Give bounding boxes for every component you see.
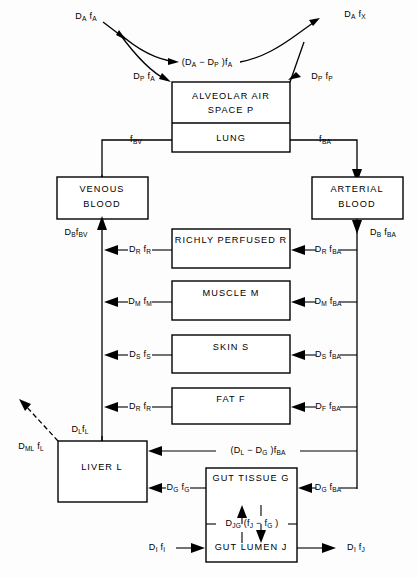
diagram-vector-layer: ALVEOLAR AIR SPACE P LUNG VENOUS BLOOD A… bbox=[0, 0, 418, 578]
skin-label: SKIN S bbox=[213, 342, 249, 352]
flow-label-hepatic-artery: (DL − DG )fBA bbox=[231, 446, 286, 455]
flow-label-fat-in: DF fBA bbox=[315, 402, 341, 411]
flow-label-expired-air: DA fX bbox=[344, 10, 365, 19]
alveolar-label-line1: ALVEOLAR AIR bbox=[192, 91, 270, 101]
alveolar-label-line2: SPACE P bbox=[208, 105, 255, 115]
fat-box bbox=[172, 388, 290, 424]
intestinal-input-arrow bbox=[176, 543, 205, 553]
flow-label-skin-out: DS fS bbox=[129, 350, 150, 359]
flow-label-liver-metabolism: DML fL bbox=[18, 442, 44, 451]
flow-label-fat-out: DR fR bbox=[129, 402, 151, 411]
flow-label-richly-out: DR fR bbox=[129, 245, 151, 254]
arterial-blood-box bbox=[312, 177, 403, 219]
lung-label: LUNG bbox=[216, 133, 246, 143]
flow-label-intestinal-input: DI fI bbox=[149, 543, 165, 552]
venous-blood-box bbox=[57, 177, 148, 219]
flow-label-muscle-out: DM fM bbox=[128, 297, 152, 306]
flow-label-liver-out: DLfL bbox=[71, 425, 88, 434]
muscle-box bbox=[172, 281, 290, 320]
gut-lumen-label: GUT LUMEN J bbox=[215, 542, 288, 552]
inspired-air-arrow bbox=[103, 22, 179, 65]
flow-label-dead-space: (DA − DP )fA bbox=[182, 58, 232, 67]
deadspace-curve-right bbox=[240, 33, 299, 62]
fat-label: FAT F bbox=[216, 394, 245, 404]
richly-perfused-label: RICHLY PERFUSED R bbox=[175, 235, 287, 245]
venous-return-trunk bbox=[97, 216, 107, 454]
flow-label-lung-arterial: fBA bbox=[319, 135, 331, 144]
flow-label-inspired-air: DA fA bbox=[75, 12, 96, 21]
flow-label-richly-in: DR fBA bbox=[315, 245, 341, 254]
flow-label-skin-in: DS fBA bbox=[315, 350, 341, 359]
gut-tissue-label: GUT TISSUE G bbox=[212, 473, 289, 483]
flow-label-alveolar-out: DP fP bbox=[311, 72, 332, 81]
flow-label-blood-arterial: DB fBA bbox=[370, 228, 396, 237]
flow-diagram-canvas: ALVEOLAR AIR SPACE P LUNG VENOUS BLOOD A… bbox=[0, 0, 418, 578]
expired-air-arrow bbox=[299, 18, 320, 33]
flow-label-muscle-in: DM fBA bbox=[314, 297, 341, 306]
venous-label-line1: VENOUS bbox=[79, 184, 124, 194]
flow-label-portal-vein: DG fG bbox=[167, 483, 190, 492]
skin-box bbox=[172, 335, 290, 373]
flow-label-alveolar-in: DP fA bbox=[133, 72, 154, 81]
arterial-supply-trunk bbox=[352, 219, 362, 489]
intestinal-output-arrow bbox=[297, 543, 336, 553]
arterial-label-line1: ARTERIAL bbox=[330, 184, 383, 194]
liver-metabolism-arrow bbox=[19, 399, 58, 441]
liver-label: LIVER L bbox=[81, 462, 123, 472]
flow-label-gut-exchange: DJG (fJ − fG ) bbox=[225, 519, 278, 528]
arterial-label-line2: BLOOD bbox=[338, 199, 375, 209]
alveolar-output-arrow bbox=[288, 42, 304, 82]
muscle-label: MUSCLE M bbox=[203, 288, 260, 298]
flow-label-gut-in: DG fBA bbox=[315, 483, 342, 492]
flow-label-lung-venous: fBV bbox=[130, 135, 142, 144]
flow-label-intestinal-output: DI fJ bbox=[347, 543, 365, 552]
flow-label-blood-venous: DBfBV bbox=[64, 228, 87, 237]
venous-label-line2: BLOOD bbox=[83, 199, 120, 209]
